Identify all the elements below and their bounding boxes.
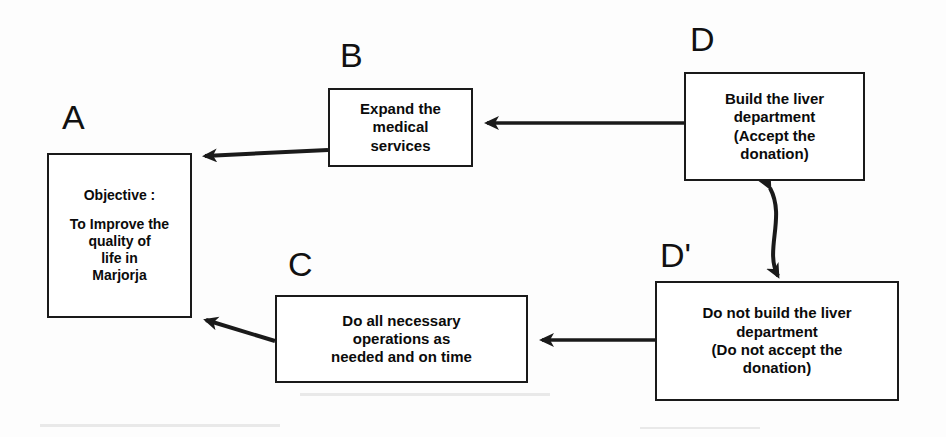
node-a-line-4: quality of — [88, 233, 150, 250]
node-d-line-3: (Accept the — [734, 127, 816, 145]
node-c-line-2: operations as — [353, 330, 451, 348]
node-a-line-5: life in — [101, 250, 138, 267]
edge-d-to-dprime — [770, 188, 778, 276]
node-label-d: D — [690, 22, 715, 56]
node-box-d[interactable]: Build the liver department (Accept the d… — [684, 72, 865, 181]
node-box-dprime[interactable]: Do not build the liver department (Do no… — [655, 281, 899, 401]
diagram-canvas: A B C D D' Objective : To Improve the qu… — [0, 0, 946, 437]
node-dprime-line-2: department — [736, 323, 818, 341]
scan-artifact — [640, 427, 760, 429]
node-b-line-1: Expand the — [360, 100, 441, 118]
node-d-line-4: donation) — [740, 145, 808, 163]
node-label-dprime: D' — [660, 238, 691, 272]
node-b-line-3: services — [370, 137, 430, 155]
node-box-b[interactable]: Expand the medical services — [328, 88, 473, 167]
scan-artifact — [300, 393, 550, 396]
edge-c-to-a — [206, 320, 275, 341]
scan-artifact — [40, 424, 280, 427]
node-c-line-3: needed and on time — [331, 348, 472, 366]
node-b-line-2: medical — [373, 118, 429, 136]
node-a-line-6: Marjorja — [92, 267, 146, 284]
node-c-line-1: Do all necessary — [342, 312, 460, 330]
node-dprime-line-3: (Do not accept the — [712, 341, 843, 359]
node-box-c[interactable]: Do all necessary operations as needed an… — [275, 295, 528, 383]
node-a-line-3: To Improve the — [70, 216, 169, 233]
node-d-line-2: department — [734, 108, 816, 126]
node-dprime-line-4: donation) — [743, 359, 811, 377]
node-a-line-1: Objective : — [84, 187, 156, 204]
node-label-c: C — [288, 247, 313, 281]
node-dprime-line-1: Do not build the liver — [702, 304, 851, 322]
node-label-a: A — [62, 100, 85, 134]
node-d-line-1: Build the liver — [725, 90, 824, 108]
node-label-b: B — [340, 38, 363, 72]
node-box-a[interactable]: Objective : To Improve the quality of li… — [47, 153, 192, 318]
edge-b-to-a — [205, 150, 328, 156]
